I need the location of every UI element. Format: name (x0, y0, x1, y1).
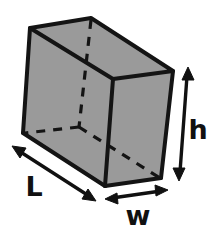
prism-diagram-svg: Rectangular prism with labeled dimension… (0, 0, 219, 244)
dimension-length-arrowhead-end (82, 189, 96, 201)
dimension-height-arrowhead-top (182, 67, 194, 80)
dimension-width-line (112, 191, 161, 198)
label-length: L (25, 171, 42, 202)
dimension-width: w (105, 185, 168, 231)
dimension-height-line (180, 76, 187, 172)
dimension-width-arrowhead-start (105, 193, 118, 204)
label-height: h (188, 114, 207, 145)
rectangular-prism-figure: Rectangular prism with labeled dimension… (0, 0, 219, 244)
label-width: w (126, 200, 151, 231)
dimension-height-arrowhead-bottom (173, 168, 185, 181)
dimension-length-arrowhead-start (12, 146, 26, 158)
dimension-height: h (173, 67, 208, 181)
prism-faces (23, 18, 173, 186)
dimension-width-arrowhead-end (155, 185, 168, 196)
